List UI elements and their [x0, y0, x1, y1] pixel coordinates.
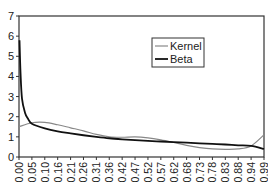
y-tick-label: 6 — [8, 30, 14, 42]
x-tick-label: 0.78 — [206, 162, 218, 183]
x-tick-label: 0.47 — [129, 162, 141, 183]
x-tick-label: 0.16 — [52, 162, 64, 183]
x-tick-label: 0.73 — [194, 162, 206, 183]
x-tick-label: 0.99 — [258, 162, 268, 183]
x-tick-label: 0.26 — [77, 162, 89, 183]
x-tick-label: 0.36 — [103, 162, 115, 183]
y-tick-label: 1 — [8, 131, 14, 143]
x-tick-label: 0.83 — [219, 162, 231, 183]
x-tick-label: 0.00 — [13, 162, 25, 183]
y-tick-label: 4 — [8, 70, 14, 82]
legend: Kernel Beta — [152, 38, 204, 67]
x-tick-label: 0.42 — [116, 162, 128, 183]
x-tick-label: 0.62 — [168, 162, 180, 183]
y-tick-label: 5 — [8, 50, 14, 62]
y-tick-label: 3 — [8, 91, 14, 103]
legend-beta-label: Beta — [170, 53, 194, 65]
y-axis: 01234567 — [8, 10, 19, 163]
y-tick-label: 2 — [8, 111, 14, 123]
legend-kernel-label: Kernel — [170, 40, 202, 52]
y-tick-label: 7 — [8, 10, 14, 22]
x-tick-label: 0.68 — [181, 162, 193, 183]
x-tick-label: 0.94 — [245, 162, 257, 183]
density-chart: 01234567 0.000.050.100.160.210.260.310.3… — [0, 0, 268, 192]
x-tick-label: 0.52 — [142, 162, 154, 183]
series-lines — [19, 40, 264, 149]
chart-svg: 01234567 0.000.050.100.160.210.260.310.3… — [0, 0, 268, 192]
x-tick-label: 0.21 — [65, 162, 77, 183]
x-axis: 0.000.050.100.160.210.260.310.360.420.47… — [13, 157, 268, 182]
x-tick-label: 0.05 — [26, 162, 38, 183]
plot-frame — [19, 16, 264, 157]
series-line-beta — [20, 40, 265, 149]
x-tick-label: 0.88 — [232, 162, 244, 183]
x-tick-label: 0.57 — [155, 162, 167, 183]
y-tick-label: 0 — [8, 151, 14, 163]
x-tick-label: 0.10 — [39, 162, 51, 183]
x-tick-label: 0.31 — [90, 162, 102, 183]
